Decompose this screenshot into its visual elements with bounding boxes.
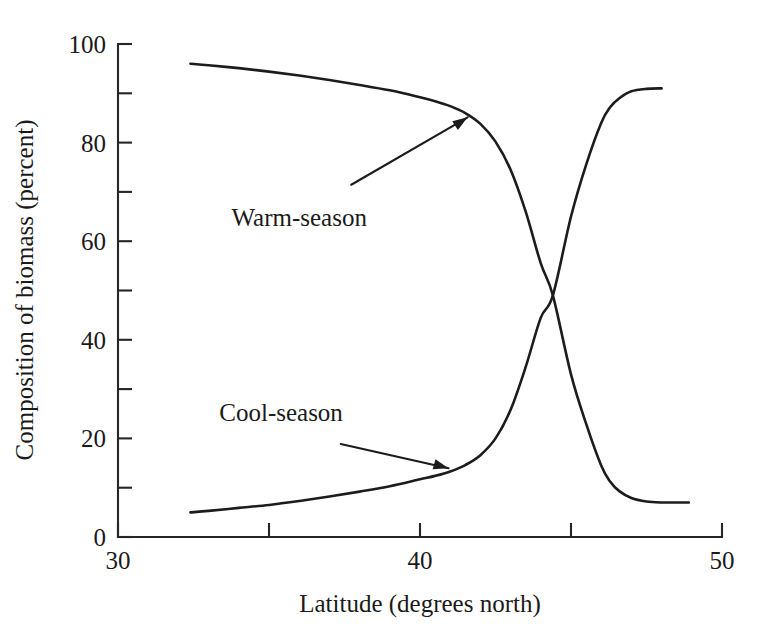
x-tick-label: 30 (106, 547, 131, 574)
data-series-group (190, 64, 688, 513)
annotation-arrowhead-warm-season (452, 117, 467, 130)
series-annotations-group: Warm-seasonCool-season (219, 117, 467, 469)
y-tick-label: 80 (81, 130, 106, 157)
y-tick-label: 0 (94, 524, 107, 551)
annotation-leader-warm-season (351, 117, 467, 184)
series-curve-warm-season (190, 64, 688, 503)
x-axis-ticks (118, 523, 722, 537)
axes-group (118, 44, 722, 537)
x-tick-label: 40 (408, 547, 433, 574)
annotation-label-cool-season: Cool-season (219, 399, 343, 426)
y-tick-label: 100 (69, 31, 107, 58)
x-tick-label: 50 (710, 547, 735, 574)
annotation-label-warm-season: Warm-season (231, 204, 367, 231)
y-axis-tick-labels: 020406080100 (69, 31, 107, 551)
y-axis-ticks (118, 44, 132, 537)
y-tick-label: 20 (81, 425, 106, 452)
series-curve-cool-season (190, 88, 661, 512)
y-tick-label: 40 (81, 327, 106, 354)
annotation-arrowhead-cool-season (433, 459, 449, 469)
annotation-leader-cool-season (341, 444, 449, 468)
chart-figure: 020406080100 304050 Warm-seasonCool-seas… (0, 0, 767, 642)
y-axis-title: Composition of biomass (percent) (11, 120, 39, 461)
line-chart: 020406080100 304050 Warm-seasonCool-seas… (0, 0, 767, 642)
x-axis-title: Latitude (degrees north) (299, 590, 541, 618)
y-tick-label: 60 (81, 228, 106, 255)
x-axis-tick-labels: 304050 (106, 547, 735, 574)
